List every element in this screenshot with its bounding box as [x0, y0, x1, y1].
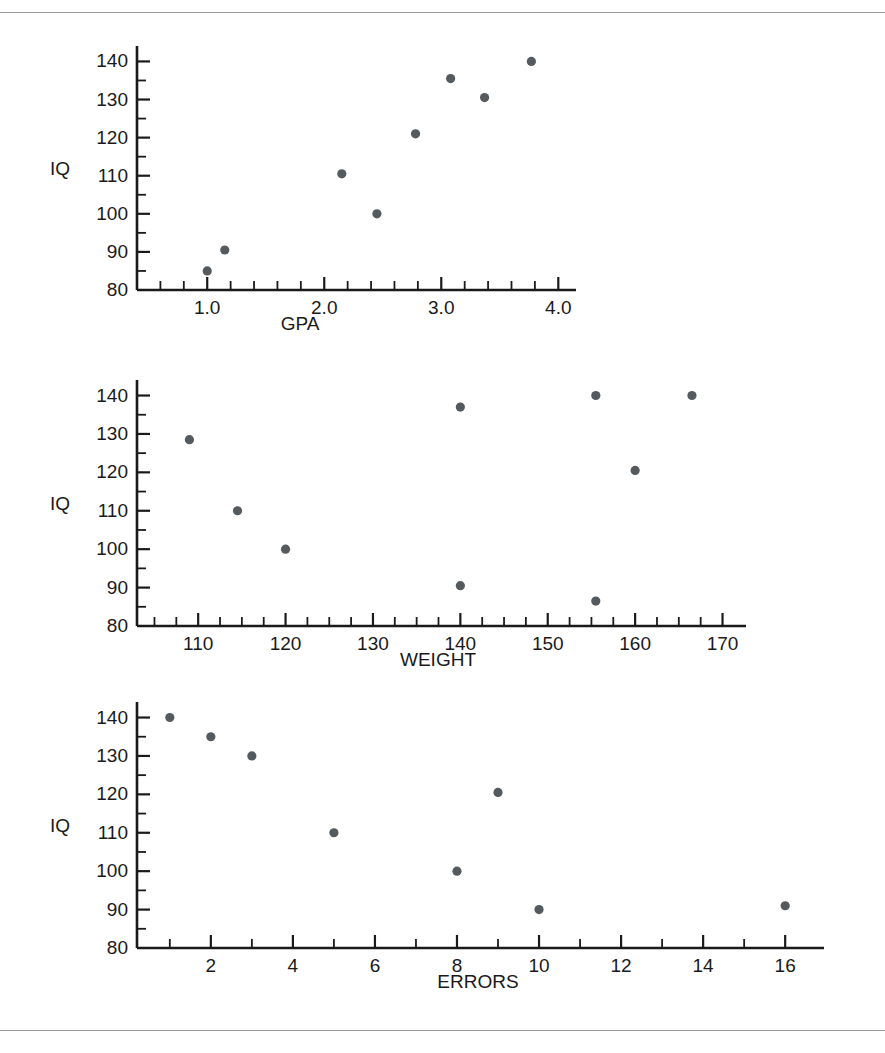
data-point	[591, 596, 600, 605]
x-tick-label: 160	[619, 633, 651, 654]
scatter-panel-iq-vs-weight: 8090100110120130140IQ1101201301401501601…	[0, 360, 885, 690]
data-point	[631, 466, 640, 475]
x-tick-label: 150	[532, 633, 564, 654]
scatter-panel-iq-vs-gpa: 8090100110120130140IQ1.02.03.04.0GPA	[0, 22, 885, 342]
data-point	[206, 732, 215, 741]
x-tick-label: 6	[370, 955, 381, 976]
y-tick-label: 140	[96, 707, 128, 728]
y-tick-label: 130	[96, 89, 128, 110]
data-point	[220, 245, 229, 254]
y-axis-title: IQ	[50, 493, 70, 514]
y-axis-title: IQ	[50, 815, 70, 836]
data-point	[446, 74, 455, 83]
data-point	[203, 266, 212, 275]
y-tick-label: 100	[96, 203, 128, 224]
data-point	[493, 788, 502, 797]
y-tick-label: 90	[107, 241, 128, 262]
y-tick-label: 80	[107, 279, 128, 300]
x-tick-label: 10	[528, 955, 549, 976]
data-point	[534, 905, 543, 914]
data-point	[233, 506, 242, 515]
x-tick-label: 3.0	[428, 297, 454, 318]
x-tick-label: 4.0	[545, 297, 571, 318]
x-axis-title: GPA	[281, 313, 320, 334]
y-tick-label: 120	[96, 461, 128, 482]
data-point	[329, 828, 338, 837]
data-point	[456, 402, 465, 411]
scatter-plot-iq-vs-gpa: 8090100110120130140IQ1.02.03.04.0GPA	[0, 22, 885, 342]
data-point	[411, 129, 420, 138]
y-tick-label: 110	[98, 165, 128, 186]
data-point	[527, 57, 536, 66]
data-point	[480, 93, 489, 102]
x-tick-label: 120	[270, 633, 302, 654]
y-tick-label: 120	[96, 127, 128, 148]
x-tick-label: 12	[611, 955, 632, 976]
y-tick-label: 110	[98, 500, 128, 521]
x-axis-title: ERRORS	[437, 971, 518, 992]
top-divider-rule	[0, 12, 885, 13]
scatter-plot-iq-vs-errors: 8090100110120130140IQ246810121416ERRORS	[0, 680, 885, 1020]
data-point	[247, 751, 256, 760]
y-tick-label: 80	[107, 937, 128, 958]
y-tick-label: 120	[96, 783, 128, 804]
data-point	[165, 713, 174, 722]
y-tick-label: 100	[96, 860, 128, 881]
scatter-panel-iq-vs-errors: 8090100110120130140IQ246810121416ERRORS	[0, 680, 885, 1020]
y-tick-label: 80	[107, 615, 128, 636]
data-point	[781, 901, 790, 910]
x-tick-label: 170	[707, 633, 739, 654]
y-tick-label: 90	[107, 577, 128, 598]
x-tick-label: 1.0	[194, 297, 220, 318]
x-tick-label: 4	[288, 955, 299, 976]
x-tick-label: 130	[357, 633, 389, 654]
data-point	[281, 545, 290, 554]
x-tick-label: 2	[206, 955, 217, 976]
data-point	[337, 169, 346, 178]
y-tick-label: 140	[96, 385, 128, 406]
scatter-plot-iq-vs-weight: 8090100110120130140IQ1101201301401501601…	[0, 360, 885, 690]
x-axis-title: WEIGHT	[400, 649, 476, 670]
bottom-divider-rule	[0, 1030, 885, 1031]
data-point	[372, 209, 381, 218]
y-tick-label: 90	[107, 899, 128, 920]
x-tick-label: 14	[693, 955, 715, 976]
data-point	[687, 391, 696, 400]
data-point	[591, 391, 600, 400]
data-point	[456, 581, 465, 590]
x-tick-label: 16	[775, 955, 796, 976]
y-tick-label: 100	[96, 538, 128, 559]
y-tick-label: 130	[96, 423, 128, 444]
y-tick-label: 140	[96, 50, 128, 71]
data-point	[185, 435, 194, 444]
y-axis-title: IQ	[50, 158, 70, 179]
y-tick-label: 110	[98, 822, 128, 843]
x-tick-label: 110	[183, 633, 213, 654]
y-tick-label: 130	[96, 745, 128, 766]
data-point	[452, 867, 461, 876]
